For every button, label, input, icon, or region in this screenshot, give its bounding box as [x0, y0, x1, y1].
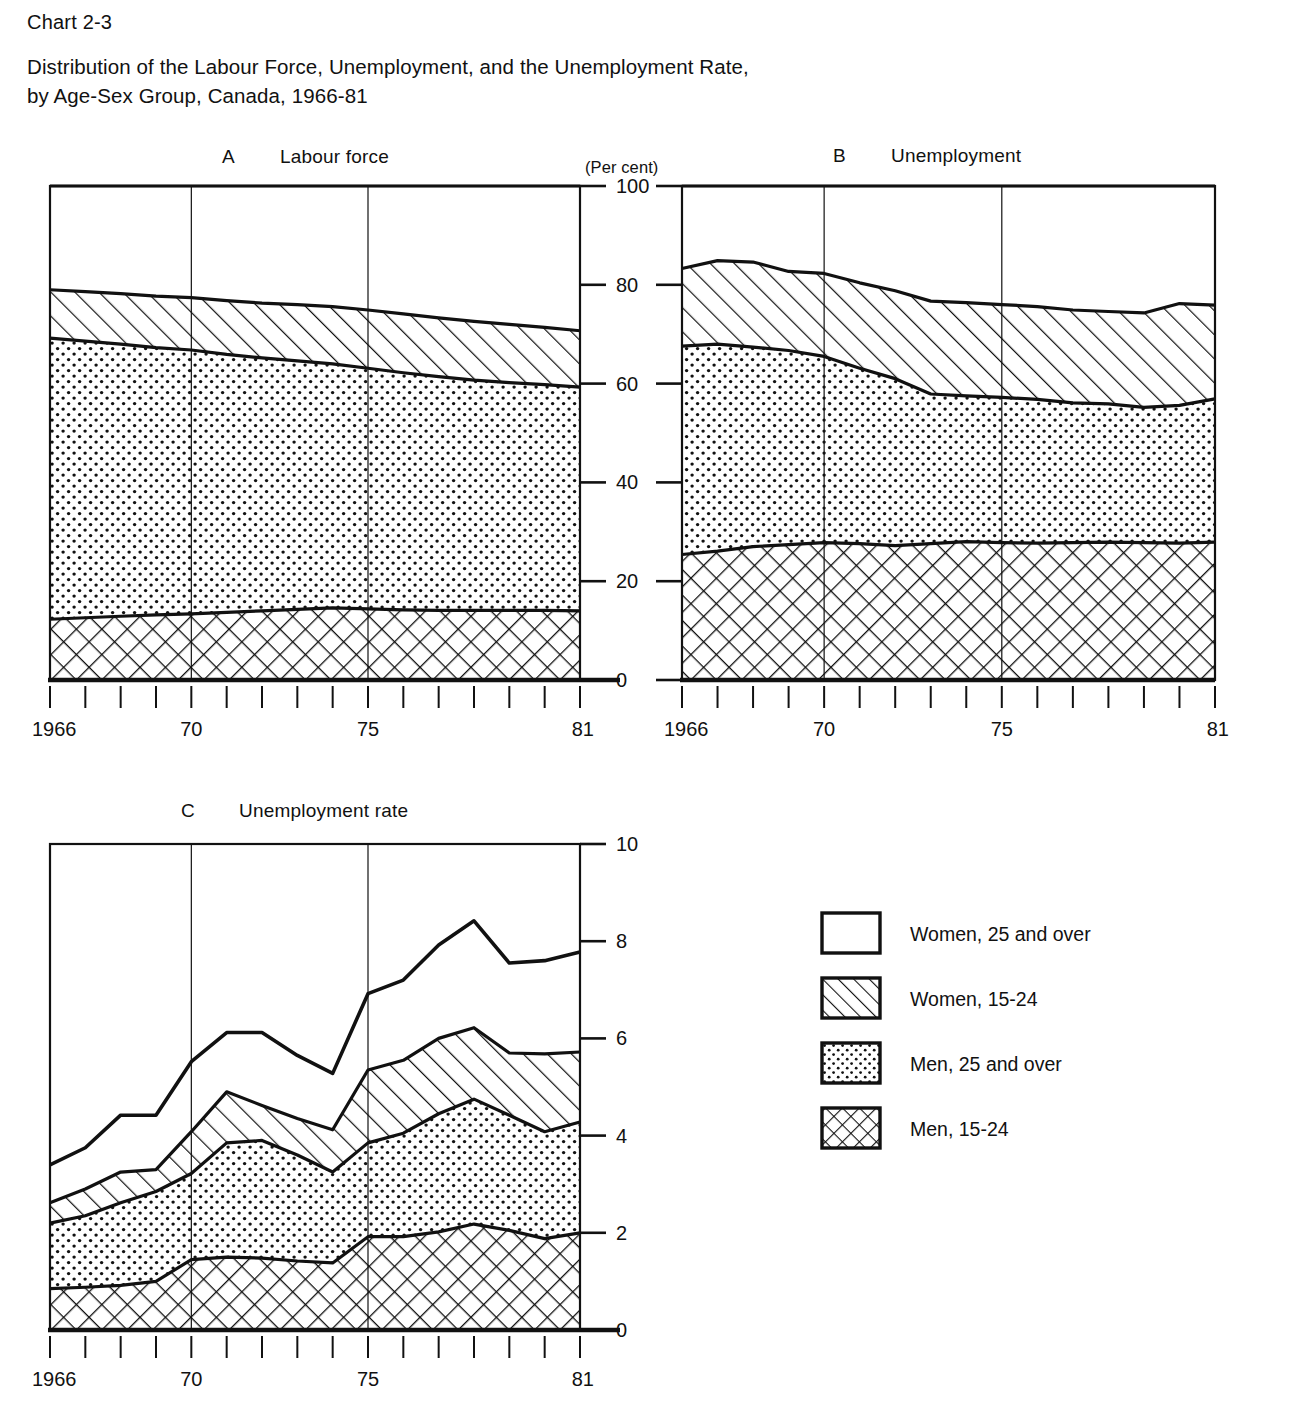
- svg-a-plot: 1966707581020406080100: [32, 175, 649, 740]
- panel-c-label: Unemployment rate: [239, 800, 408, 821]
- panel-a-chart: 1966707581020406080100: [0, 170, 660, 750]
- panel-a-label: Labour force: [280, 146, 389, 167]
- y-axis-label: 40: [616, 471, 638, 493]
- x-axis-label: 70: [180, 1368, 202, 1390]
- panel-b-letter: B: [833, 145, 891, 167]
- band-crosshatch: [50, 608, 580, 680]
- y-axis-label: 80: [616, 274, 638, 296]
- x-axis-label: 70: [813, 718, 835, 740]
- x-axis-label: 81: [1207, 718, 1229, 740]
- page-title: Distribution of the Labour Force, Unempl…: [27, 52, 749, 110]
- y-axis-label: 0: [616, 669, 627, 691]
- legend-swatch-diagonal: [822, 978, 880, 1018]
- x-axis-label: 75: [991, 718, 1013, 740]
- legend-item: Women, 25 and over: [822, 913, 1091, 953]
- panel-a-caption: ALabour force: [222, 146, 389, 168]
- legend-item: Men, 15-24: [822, 1108, 1009, 1148]
- y-axis-label: 0: [616, 1319, 627, 1341]
- legend-swatch-blank: [822, 913, 880, 953]
- panel-a-letter: A: [222, 146, 280, 168]
- x-axis-label: 1966: [664, 718, 709, 740]
- x-axis-label: 81: [572, 1368, 594, 1390]
- legend-item: Women, 15-24: [822, 978, 1038, 1018]
- legend-item: Men, 25 and over: [822, 1043, 1062, 1083]
- legend-label: Women, 15-24: [910, 988, 1038, 1010]
- panel-c-letter: C: [181, 800, 239, 822]
- panel-b-label: Unemployment: [891, 145, 1021, 166]
- panel-b-caption: BUnemployment: [833, 145, 1021, 167]
- legend-label: Men, 15-24: [910, 1118, 1009, 1140]
- panel-b-chart: 1966707581: [640, 170, 1280, 750]
- x-axis-label: 75: [357, 718, 379, 740]
- y-axis-label: 8: [616, 930, 627, 952]
- chart-legend: Women, 25 and overWomen, 15-24Men, 25 an…: [800, 895, 1220, 1175]
- band-crosshatch: [682, 542, 1215, 680]
- y-axis-label: 60: [616, 373, 638, 395]
- x-axis-label: 70: [180, 718, 202, 740]
- chart-number: Chart 2-3: [27, 11, 112, 34]
- y-axis-label: 4: [616, 1125, 627, 1147]
- svg-c-plot: 19667075810246810: [32, 833, 638, 1390]
- x-axis-label: 1966: [32, 1368, 77, 1390]
- x-axis-label: 81: [572, 718, 594, 740]
- panel-c-caption: CUnemployment rate: [181, 800, 408, 822]
- legend-label: Women, 25 and over: [910, 923, 1091, 945]
- y-axis-label: 6: [616, 1027, 627, 1049]
- y-axis-label: 10: [616, 833, 638, 855]
- legend-label: Men, 25 and over: [910, 1053, 1062, 1075]
- legend-swatch-crosshatch: [822, 1108, 880, 1148]
- panel-c-chart: 19667075810246810: [0, 820, 660, 1400]
- x-axis-label: 75: [357, 1368, 379, 1390]
- y-axis-label: 20: [616, 570, 638, 592]
- x-axis-label: 1966: [32, 718, 77, 740]
- y-axis-label: 2: [616, 1222, 627, 1244]
- legend-swatch-dots: [822, 1043, 880, 1083]
- svg-b-plot: 1966707581: [656, 186, 1229, 740]
